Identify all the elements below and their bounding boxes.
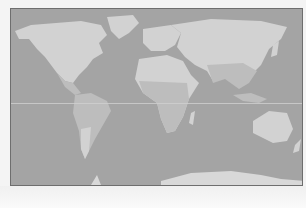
north-america [15,21,107,83]
world-map [10,8,303,186]
madagascar [189,111,195,125]
greenland [107,15,139,39]
europe [143,25,181,51]
equator-line [11,103,302,104]
africa-tropical [139,81,189,133]
indonesia [233,93,267,103]
south-america-south [81,127,91,159]
asia-tropical [207,63,257,89]
antarctica [91,171,303,186]
page-bottom-margin [0,186,306,208]
australia [253,111,293,143]
map-land-shapes [11,9,303,186]
new-zealand [293,139,301,153]
